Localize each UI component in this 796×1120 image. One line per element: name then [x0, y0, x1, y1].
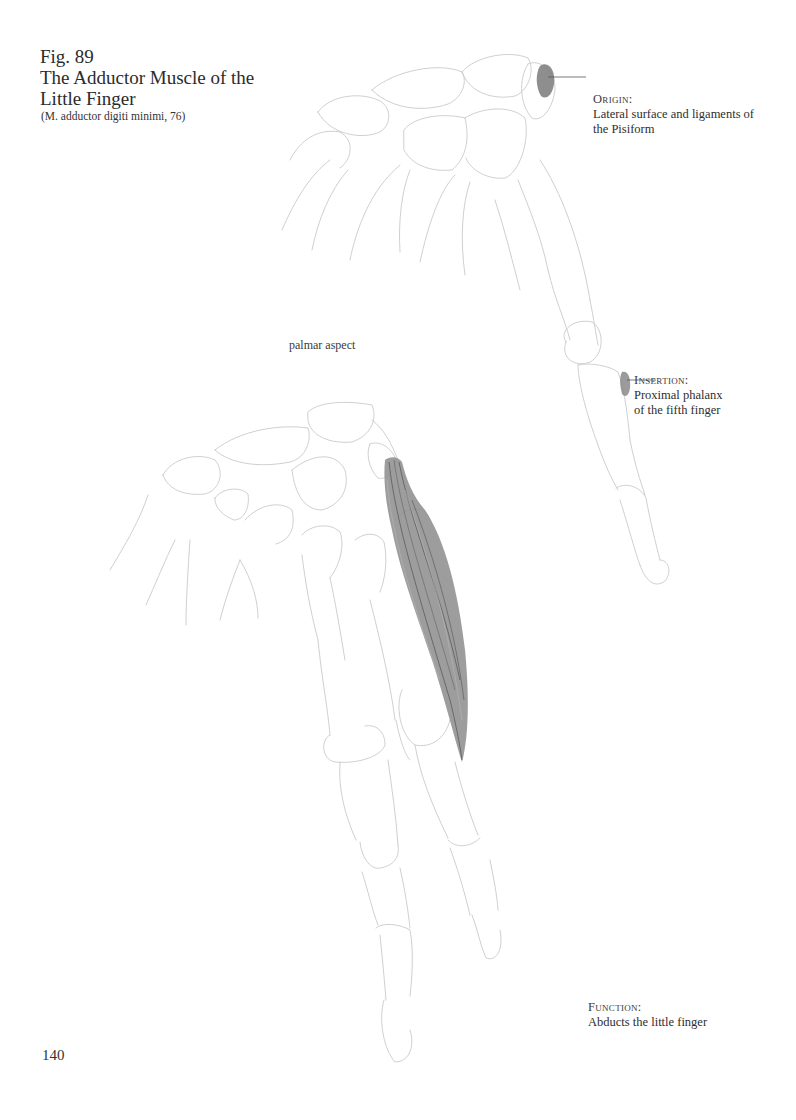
function-heading: Function:	[588, 1000, 778, 1015]
origin-heading: Origin:	[593, 92, 783, 107]
view-label: palmar aspect	[289, 338, 355, 353]
anatomical-illustration	[0, 0, 796, 1120]
adductor-digiti-minimi-muscle	[384, 457, 467, 762]
figure-title-line2: Little Finger	[40, 88, 300, 109]
figure-number: Fig. 89	[40, 46, 300, 67]
insertion-marker	[620, 372, 630, 396]
bottom-hand-skeleton	[110, 402, 501, 1062]
figure-title: The Adductor Muscle of the Little Finger	[40, 67, 300, 109]
function-text-line1: Abducts the little finger	[588, 1015, 778, 1030]
insertion-heading: Insertion:	[634, 373, 784, 388]
origin-text-line1: Lateral surface and ligaments of	[593, 107, 783, 122]
origin-annotation: Origin: Lateral surface and ligaments of…	[593, 92, 783, 137]
page-number: 140	[42, 1047, 65, 1064]
figure-title-line1: The Adductor Muscle of the	[40, 67, 300, 88]
function-annotation: Function: Abducts the little finger	[588, 1000, 778, 1030]
figure-latin-name: (M. adductor digiti minimi, 76)	[41, 109, 300, 123]
origin-text-line2: the Pisiform	[593, 122, 783, 137]
figure-title-block: Fig. 89 The Adductor Muscle of the Littl…	[40, 46, 300, 123]
insertion-text-line2: of the fifth finger	[634, 403, 784, 418]
origin-marker	[537, 64, 555, 97]
insertion-annotation: Insertion: Proximal phalanx of the fifth…	[634, 373, 784, 418]
insertion-text-line1: Proximal phalanx	[634, 388, 784, 403]
